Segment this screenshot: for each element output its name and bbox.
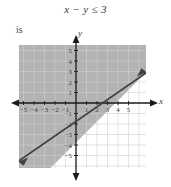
- x-tick-label: 2: [95, 106, 99, 113]
- y-tick-label: −4: [65, 142, 73, 149]
- y-tick-label: 4: [69, 58, 73, 65]
- shaded-region: [19, 0, 146, 187]
- y-tick-label: −1: [65, 110, 72, 117]
- y-tick-label: 1: [69, 89, 72, 96]
- x-tick-label: 3: [106, 106, 110, 113]
- y-tick-label: 2: [69, 79, 73, 86]
- x-tick-label: 4: [116, 106, 120, 113]
- x-tick-label: 1: [85, 106, 88, 113]
- y-tick-label: −3: [65, 131, 73, 138]
- x-tick-label: 5: [127, 106, 131, 113]
- y-tick-label: −2: [65, 121, 73, 128]
- y-tick-label: 5: [69, 47, 73, 54]
- x-axis-label: x: [159, 96, 163, 106]
- x-tick-label: −5: [20, 106, 28, 113]
- y-tick-label: 3: [69, 68, 73, 75]
- graph-svg: −5 −4 −3 −2 −1 1 2 3 4 5 5 4 3 2 1 −1 −2…: [0, 0, 171, 187]
- x-tick-label: −2: [51, 106, 59, 113]
- x-tick-label: −4: [30, 106, 38, 113]
- y-tick-label: −5: [65, 152, 73, 159]
- coordinate-plane: −5 −4 −3 −2 −1 1 2 3 4 5 5 4 3 2 1 −1 −2…: [0, 0, 171, 187]
- figure-container: x − y ≤ 3 is: [0, 0, 171, 187]
- x-tick-label: −3: [41, 106, 49, 113]
- y-axis-label: y: [78, 28, 82, 38]
